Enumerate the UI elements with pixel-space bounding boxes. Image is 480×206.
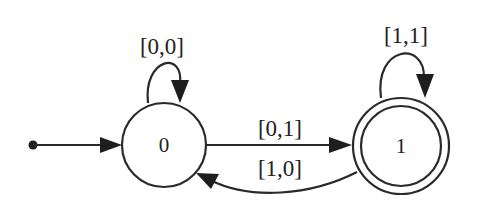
state-label-0: 0 bbox=[159, 133, 170, 157]
edge-0-0: [0,0] bbox=[140, 34, 189, 103]
state-label-1: 1 bbox=[396, 134, 407, 158]
edge-label-0-1: [0,1] bbox=[258, 116, 302, 141]
edge-label-1-1: [1,1] bbox=[384, 23, 428, 48]
state-1: 1 bbox=[353, 98, 449, 194]
edge-label-1-0: [1,0] bbox=[258, 156, 302, 181]
arrowhead-icon bbox=[100, 137, 122, 153]
edge-0-1: [0,1] bbox=[206, 116, 352, 153]
arrowhead-icon bbox=[416, 74, 434, 98]
edge-1-1: [1,1] bbox=[380, 23, 434, 98]
arrowhead-icon bbox=[196, 173, 219, 189]
automaton-diagram: [0,0] [1,1] [0,1] [1,0] 0 1 bbox=[0, 0, 480, 206]
initial-arrow bbox=[29, 137, 123, 153]
arrowhead-icon bbox=[171, 80, 189, 103]
edge-1-0: [1,0] bbox=[196, 156, 357, 193]
arrowhead-icon bbox=[329, 137, 352, 153]
state-0: 0 bbox=[122, 103, 206, 187]
edge-label-0-0: [0,0] bbox=[140, 34, 184, 59]
